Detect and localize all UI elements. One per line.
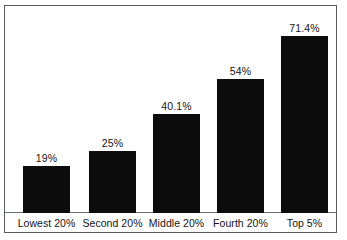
bar-value-label: 19%: [9, 152, 84, 164]
bar-chart-screenshot: 19% 25% 40.1% 54% 71.4% Lowest 20% Secon…: [0, 0, 347, 240]
bar: [217, 79, 264, 213]
bar-group-middle-20: 40.1%: [153, 0, 200, 213]
bar-group-fourth-20: 54%: [217, 0, 264, 213]
category-axis-labels: Lowest 20% Second 20% Middle 20% Fourth …: [0, 216, 347, 232]
bar: [281, 36, 328, 213]
bar-group-second-20: 25%: [89, 0, 136, 213]
category-label-top-5: Top 5%: [262, 216, 347, 230]
bar-value-label: 71.4%: [267, 22, 342, 34]
bar-value-label: 40.1%: [139, 100, 214, 112]
bar: [153, 114, 200, 213]
bar-group-top-5: 71.4%: [281, 0, 328, 213]
bar-series: 19% 25% 40.1% 54% 71.4%: [0, 0, 347, 213]
bar-value-label: 54%: [203, 65, 278, 77]
bar-group-lowest-20: 19%: [23, 0, 70, 213]
bar: [23, 166, 70, 213]
bar-value-label: 25%: [75, 137, 150, 149]
bar: [89, 151, 136, 213]
